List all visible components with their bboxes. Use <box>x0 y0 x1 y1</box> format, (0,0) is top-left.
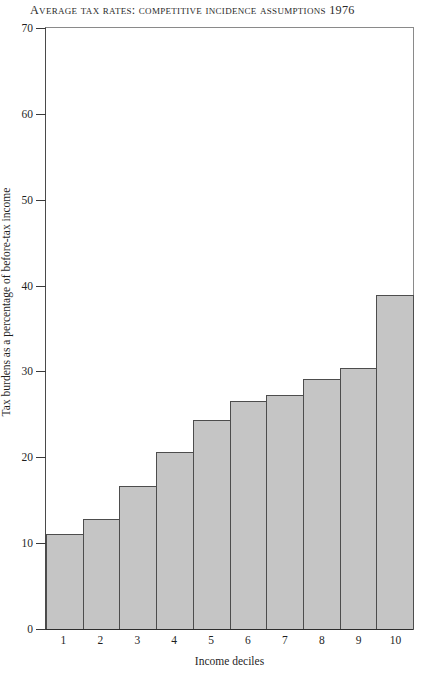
x-axis-tick-label: 5 <box>193 634 230 646</box>
y-axis-tick-mark <box>36 371 46 372</box>
x-axis-tick-label: 4 <box>156 634 193 646</box>
x-axis-tick-label: 2 <box>82 634 119 646</box>
x-axis-tick-labels: 12345678910 <box>45 634 414 646</box>
y-axis-title: Tax burdens as a percentage of before-ta… <box>0 0 14 603</box>
chart-title: Average Tax Rates: Competitive Incidence… <box>30 2 420 18</box>
y-axis-tick-label: 30 <box>22 365 34 377</box>
y-axis-tick-label: 50 <box>22 194 34 206</box>
x-axis-tick-label: 6 <box>230 634 267 646</box>
x-axis-tick-label: 10 <box>377 634 414 646</box>
bar <box>119 486 157 629</box>
x-axis-tick-label: 7 <box>266 634 303 646</box>
bar-series <box>46 28 413 629</box>
plot-area: 010203040506070 <box>45 27 414 630</box>
y-axis-tick-mark <box>36 114 46 115</box>
y-axis-tick-mark <box>36 543 46 544</box>
y-axis-tick-label: 10 <box>22 537 34 549</box>
y-axis-title-text: Tax burdens as a percentage of before-ta… <box>0 187 12 416</box>
y-axis-tick-label: 40 <box>22 280 34 292</box>
bar <box>83 519 121 629</box>
bar <box>340 368 378 629</box>
y-axis-tick-label: 60 <box>22 108 34 120</box>
y-axis-tick-mark <box>36 286 46 287</box>
y-axis-tick-label: 70 <box>22 22 34 34</box>
y-axis-tick-label: 0 <box>27 623 33 635</box>
x-axis-tick-label: 3 <box>119 634 156 646</box>
y-axis-tick-mark <box>36 28 46 29</box>
y-axis-tick-label: 20 <box>22 451 34 463</box>
bar <box>376 295 414 629</box>
chart-figure: Average Tax Rates: Competitive Incidence… <box>0 0 424 676</box>
bar <box>266 395 304 629</box>
y-axis-tick-mark <box>36 200 46 201</box>
y-axis-tick-mark <box>36 629 46 630</box>
y-axis-tick-mark <box>36 457 46 458</box>
bar <box>303 379 341 629</box>
bar <box>156 452 194 629</box>
bar <box>193 420 231 629</box>
x-axis-tick-label: 9 <box>340 634 377 646</box>
bar <box>230 401 268 629</box>
bar <box>46 534 84 629</box>
x-axis-title: Income deciles <box>45 655 414 667</box>
x-axis-tick-label: 8 <box>303 634 340 646</box>
x-axis-tick-label: 1 <box>45 634 82 646</box>
